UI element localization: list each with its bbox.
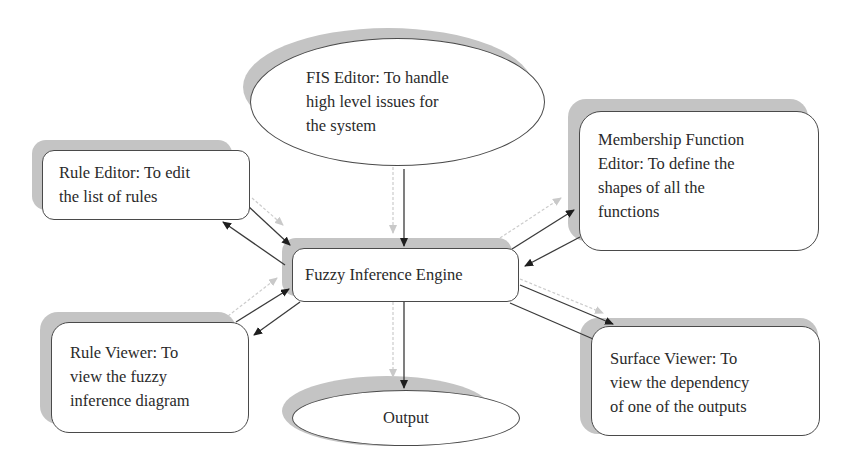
output-node: Output [292,390,520,446]
output-label: Output [293,406,519,430]
fis-editor-line-2: high level issues for [306,90,449,114]
ghost-arrow-rule-viewer [228,278,277,316]
surface-viewer-line-2: view the dependency [610,371,749,395]
rule-viewer-line-1: Rule Viewer: To [70,341,190,365]
membership-editor-line-1: Membership Function [598,128,744,152]
arrow-membership-editor-to-fie [525,237,580,266]
arrow-fie-to-rule-editor [223,222,285,265]
rule-viewer-line-3: inference diagram [70,389,190,413]
arrow-rule-editor-to-fie [248,206,290,245]
membership-editor-line-3: shapes of all the [598,176,744,200]
arrow-fie-to-surface-viewer [520,285,613,324]
arrow-fie-to-membership-editor [512,210,574,249]
surface-viewer-line-1: Surface Viewer: To [610,347,749,371]
fuzzy-inference-engine-node: Fuzzy Inference Engine [292,248,519,302]
rule-editor-line-1: Rule Editor: To edit [59,161,190,185]
ghost-arrow-rule-editor [252,198,283,225]
fuzzy-inference-engine-label: Fuzzy Inference Engine [305,263,463,287]
rule-viewer-line-2: view the fuzzy [70,365,190,389]
rule-editor-line-2: the list of rules [59,185,190,209]
membership-function-editor-node: Membership Function Editor: To define th… [579,111,819,251]
rule-viewer-node: Rule Viewer: To view the fuzzy inference… [51,322,249,433]
line-fie-to-surface-viewer-lower [510,303,600,342]
surface-viewer-node: Surface Viewer: To view the dependency o… [591,326,820,436]
membership-editor-line-2: Editor: To define the [598,152,744,176]
rule-editor-node: Rule Editor: To edit the list of rules [42,150,250,220]
surface-viewer-line-3: of one of the outputs [610,395,749,419]
membership-editor-line-4: functions [598,200,744,224]
ghost-arrow-surface-viewer [520,279,603,313]
fis-editor-node: FIS Editor: To handle high level issues … [250,38,545,166]
fis-editor-line-3: the system [306,114,449,138]
arrow-rule-viewer-to-fie [236,289,289,322]
ghost-arrow-membership-editor [500,198,561,238]
fis-editor-line-1: FIS Editor: To handle [306,66,449,90]
